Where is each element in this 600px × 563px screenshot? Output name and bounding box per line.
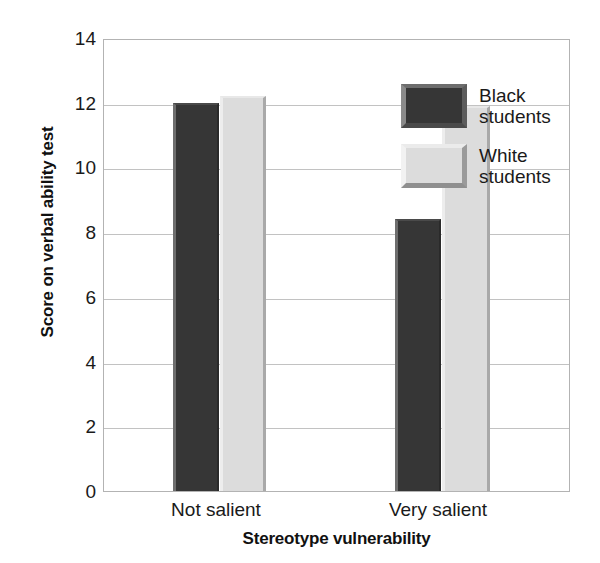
plot-area: Black students White students — [103, 39, 570, 492]
legend-label-white-students: White students — [479, 144, 551, 187]
dark-gray-swatch-icon — [401, 84, 467, 128]
legend-entry-white-students: White students — [401, 144, 600, 204]
bar-chart-figure: Score on verbal ability test 14 12 10 8 … — [0, 0, 600, 563]
light-gray-swatch-icon — [401, 144, 467, 188]
legend-label-black-students: Black students — [479, 84, 551, 127]
bar-face — [395, 219, 441, 491]
bar-black-very-salient — [395, 219, 441, 491]
legend-entry-black-students: Black students — [401, 84, 600, 144]
bar-black-not-salient — [173, 103, 219, 491]
x-tick-very-salient: Very salient — [328, 499, 548, 521]
bar-face — [173, 103, 219, 491]
bar-face — [220, 96, 266, 491]
x-tick-not-salient: Not salient — [106, 499, 326, 521]
bar-white-not-salient — [220, 96, 266, 491]
legend: Black students White students — [401, 84, 600, 204]
x-axis-title: Stereotype vulnerability — [103, 529, 570, 549]
